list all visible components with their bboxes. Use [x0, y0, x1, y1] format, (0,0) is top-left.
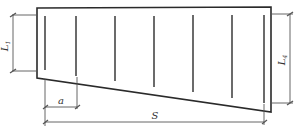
- label-s: S: [152, 110, 159, 121]
- dimension-l1: [10, 13, 37, 73]
- label-a: a: [58, 95, 64, 106]
- diagram-canvas: L1 L4 a S: [0, 0, 296, 130]
- bars-group: [45, 15, 264, 103]
- label-l4: L4: [276, 55, 288, 67]
- label-l1: L1: [0, 41, 11, 52]
